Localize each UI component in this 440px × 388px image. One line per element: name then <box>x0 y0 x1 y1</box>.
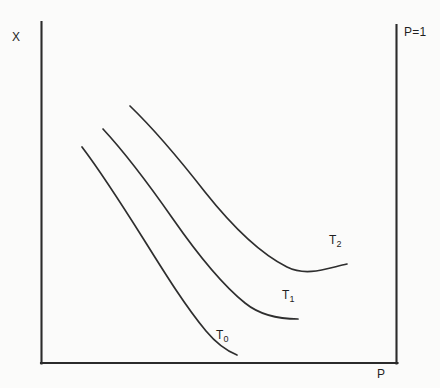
curve-label-t1: T1 <box>282 289 295 304</box>
curve-label-t0-base: T <box>216 328 224 342</box>
curve-label-t1-subscript: 1 <box>290 294 295 304</box>
curve-label-t2-subscript: 2 <box>337 239 342 249</box>
curve-label-t1-base: T <box>282 288 290 302</box>
curve-label-t2: T2 <box>329 234 342 249</box>
p-equals-one-label: P=1 <box>404 26 426 38</box>
curve-t1 <box>103 129 298 319</box>
curve-t2 <box>130 106 347 272</box>
x-axis-label: P <box>377 368 385 380</box>
isotherm-chart-figure: X P P=1 T0 T1 T2 <box>0 0 440 388</box>
y-axis-label: X <box>12 31 20 43</box>
curve-label-t2-base: T <box>329 233 337 247</box>
curve-label-t0: T0 <box>216 329 229 344</box>
curve-label-t0-subscript: 0 <box>224 334 229 344</box>
curve-t0 <box>82 147 237 355</box>
